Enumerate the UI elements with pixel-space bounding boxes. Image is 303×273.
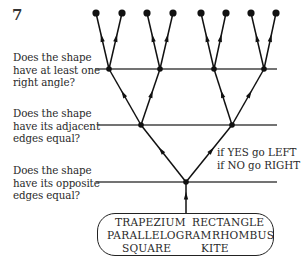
decision-node (157, 66, 163, 72)
decision-node (138, 122, 144, 128)
leaf-node (169, 9, 176, 16)
decision-node (106, 66, 112, 72)
arrow-up-icon (101, 34, 105, 42)
arrow-up-icon (184, 192, 188, 200)
arrow-up-icon (246, 91, 252, 99)
arrow-up-icon (218, 34, 222, 42)
shape-rhombus: RHOMBUS (212, 229, 274, 241)
shape-kite: KITE (201, 242, 229, 254)
leaf-node (247, 9, 254, 16)
decision-node (229, 122, 235, 128)
arrow-up-icon (152, 34, 156, 42)
decision-node (261, 66, 267, 72)
arrow-up-icon (268, 34, 272, 42)
shape-rectangle: RECTANGLE (192, 216, 264, 228)
shape-parallelogram: PARALLELOGRAM (107, 229, 212, 241)
arrow-up-icon (221, 90, 225, 98)
leaf-node (222, 9, 229, 16)
root-node (183, 179, 189, 185)
leaf-node (272, 9, 279, 16)
decision-node (211, 66, 217, 72)
arrow-up-icon (256, 34, 260, 42)
arrow-up-icon (113, 34, 117, 42)
arrow-up-icon (121, 91, 127, 99)
leaf-node (118, 9, 125, 16)
arrow-up-icon (148, 90, 153, 98)
shapes-box: TRAPEZIUM RECTANGLE PARALLELOGRAM RHOMBU… (97, 213, 274, 256)
shape-trapezium: TRAPEZIUM (115, 216, 186, 228)
edge-level-1 (186, 125, 232, 182)
leaf-node (92, 9, 99, 16)
leaf-node (197, 9, 204, 16)
arrow-up-icon (164, 34, 168, 42)
shape-square: SQUARE (122, 242, 171, 254)
arrow-up-icon (206, 34, 210, 42)
edge-level-1 (141, 125, 186, 182)
leaf-node (143, 9, 150, 16)
